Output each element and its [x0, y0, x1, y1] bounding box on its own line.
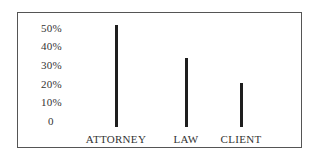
x-tick-label: CLIENT	[221, 133, 262, 145]
y-tick-label: 30%	[41, 59, 62, 71]
bar-client	[240, 83, 243, 127]
bar-attorney	[115, 25, 118, 127]
x-tick-label: ATTORNEY	[86, 133, 146, 145]
y-tick-label: 50%	[41, 22, 62, 34]
y-tick-label: 40%	[41, 40, 62, 52]
y-tick-label: 0	[48, 115, 54, 127]
y-tick-label: 10%	[41, 96, 62, 108]
bar-law	[185, 58, 188, 127]
y-tick-label: 20%	[41, 78, 62, 90]
x-tick-label: LAW	[173, 133, 198, 145]
